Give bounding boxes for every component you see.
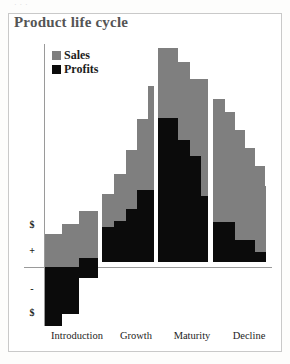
y-tick-dollar-negative: $ [24,307,40,318]
figure-frame [8,13,282,352]
page-title: Product life cycle [14,14,128,31]
y-tick-dollar-positive: $ [24,219,40,230]
sales-swatch-icon [52,51,61,60]
x-label-maturity: Maturity [162,330,222,341]
y-tick-minus: - [24,283,40,294]
scan-top-bleed-text: · · · [0,0,290,9]
y-tick-plus: + [24,245,40,256]
x-label-introduction: Introduction [42,330,112,341]
x-axis-labels: Introduction Growth Maturity Decline [44,330,272,346]
chart-legend: Sales Profits [52,48,98,76]
legend-item-sales: Sales [52,48,98,62]
x-label-growth: Growth [106,330,166,341]
x-label-decline: Decline [220,330,278,341]
profits-swatch-icon [52,65,61,74]
legend-label-sales: Sales [64,49,90,61]
y-axis-line [44,44,45,326]
zero-baseline [24,267,272,268]
legend-item-profits: Profits [52,62,98,76]
legend-label-profits: Profits [64,63,98,75]
